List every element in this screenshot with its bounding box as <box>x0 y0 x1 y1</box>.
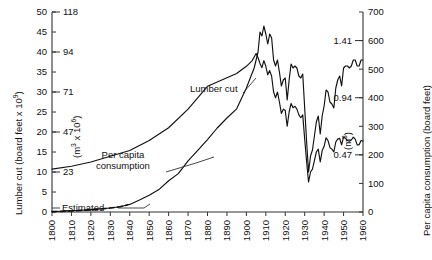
left-primary-tick-label: 15 <box>36 146 47 157</box>
left-secondary-tick-label: 23 <box>63 166 74 177</box>
x-tick-label: 1850 <box>144 220 155 241</box>
right-primary-tick-label: 600 <box>368 35 384 46</box>
x-tick-label: 1810 <box>66 220 77 241</box>
left-secondary-tick-label: 94 <box>63 46 74 57</box>
left-primary-tick-label: 45 <box>36 26 47 37</box>
left-primary-tick-label: 20 <box>36 126 47 137</box>
x-tick-label: 1900 <box>241 220 252 241</box>
right-primary-tick-label: 300 <box>368 121 384 132</box>
right-secondary-axis-title: (m3) <box>341 132 353 150</box>
right-secondary-suffix: ) <box>342 132 353 135</box>
x-tick-label: 1910 <box>260 220 271 241</box>
left-primary-axis-label-text: Lumber cut (board feet x 10 <box>13 98 24 215</box>
x-tick-label: 1860 <box>163 220 174 241</box>
x-tick-label: 1960 <box>357 220 368 241</box>
right-secondary-label-text: (m <box>342 139 353 150</box>
per-capita-line2: consumption <box>96 160 150 171</box>
left-secondary-unit-exponent: 3 <box>70 143 77 147</box>
right-primary-tick-label: 400 <box>368 92 384 103</box>
left-primary-tick-label: 25 <box>36 106 47 117</box>
x-tick-label: 1950 <box>338 220 349 241</box>
x-tick-label: 1800 <box>46 220 57 241</box>
right-secondary-tick-label: 1.41 <box>334 35 353 46</box>
x-tick-label: 1870 <box>182 220 193 241</box>
x-tick-label: 1920 <box>280 220 291 241</box>
left-primary-tick-label: 10 <box>36 166 47 177</box>
series-lumber-cut <box>52 26 363 212</box>
left-primary-tick-label: 5 <box>42 186 47 197</box>
left-secondary-suffix: ) <box>71 116 82 119</box>
x-tick-label: 1930 <box>299 220 310 241</box>
leader-per-capita-2 <box>196 157 214 163</box>
right-secondary-tick-label: 0.94 <box>334 92 353 103</box>
x-tick-label: 1880 <box>202 220 213 241</box>
left-primary-axis-suffix: ) <box>13 91 24 94</box>
left-primary-tick-label: 0 <box>42 206 47 217</box>
x-tick-label: 1840 <box>124 220 135 241</box>
left-primary-tick-label: 50 <box>36 6 47 17</box>
annotation-lumber-cut: Lumber cut <box>190 84 238 95</box>
left-secondary-mid-text: x 10 <box>71 123 82 144</box>
left-secondary-axis-title: (m3 x 106) <box>70 116 82 158</box>
annotation-estimated: Estimated <box>62 203 104 214</box>
x-tick-label: 1820 <box>85 220 96 241</box>
left-secondary-label-text: (m <box>71 147 82 158</box>
right-primary-tick-label: 100 <box>368 178 384 189</box>
left-secondary-tick-label: 118 <box>63 6 78 17</box>
left-secondary-scale-exponent: 6 <box>70 119 77 123</box>
x-tick-label: 1940 <box>319 220 330 241</box>
annotation-per-capita-consumption: Per capita consumption <box>96 150 150 172</box>
right-secondary-tick-label: 0.47 <box>334 149 353 160</box>
left-primary-axis-exponent: 9 <box>12 95 19 99</box>
left-secondary-tick-label: 71 <box>63 86 74 97</box>
left-primary-tick-label: 35 <box>36 66 47 77</box>
right-primary-tick-label: 200 <box>368 149 384 160</box>
x-tick-label: 1830 <box>105 220 116 241</box>
left-primary-tick-label: 40 <box>36 46 47 57</box>
right-secondary-unit-exponent: 3 <box>341 135 348 139</box>
leader-estimated-tip <box>144 204 150 208</box>
right-primary-tick-label: 0 <box>368 206 373 217</box>
per-capita-line1: Per capita <box>102 149 145 160</box>
right-primary-tick-label: 700 <box>368 6 384 17</box>
right-primary-axis-title: Per capita consumption (board feet) <box>421 85 432 236</box>
right-primary-tick-label: 500 <box>368 64 384 75</box>
left-primary-axis-title: Lumber cut (board feet x 109) <box>12 91 24 215</box>
x-tick-label: 1890 <box>221 220 232 241</box>
left-primary-tick-label: 30 <box>36 86 47 97</box>
